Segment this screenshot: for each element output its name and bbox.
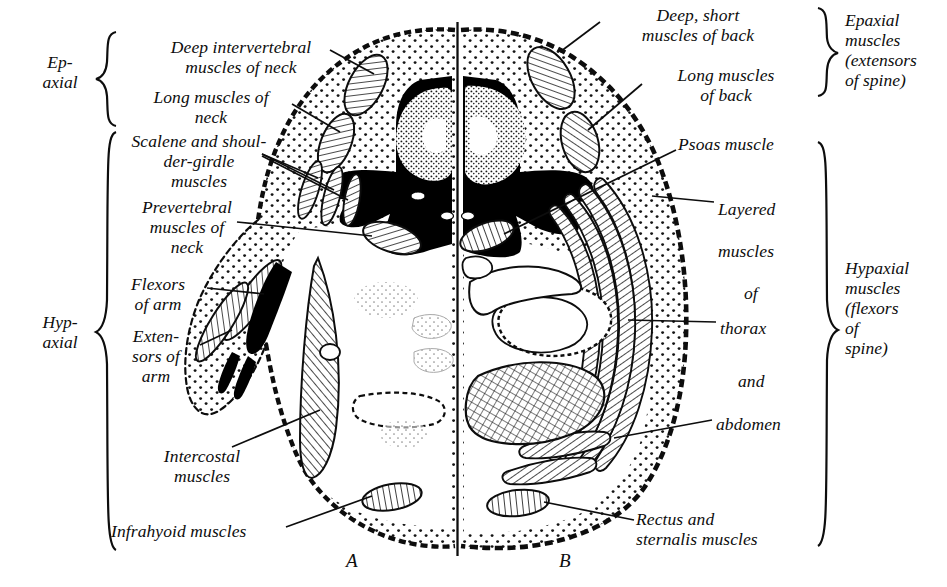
label-deep-short-muscles-of-back: Deep, short muscles of back xyxy=(600,5,796,45)
label-infrahyoid-muscles: Infrahyoid muscles xyxy=(111,521,246,541)
label-prevertebral-muscles-of-neck: Prevertebral muscles of neck xyxy=(108,197,266,257)
label-scalene-and-shoulder-girdle-muscles: Scalene and shoul- der-girdle muscles xyxy=(104,131,294,191)
label-flexors-of-arm: Flexors of arm xyxy=(106,274,210,314)
group-label-epaxial-left: Ep- axial xyxy=(18,52,102,92)
label-layered: Layered xyxy=(718,199,775,219)
leader-deep-short-back xyxy=(560,22,600,52)
group-label-epaxial-right: Epaxial muscles (extensors of spine) xyxy=(845,10,917,90)
label-deep-intervertebral-muscles-of-neck: Deep intervertebral muscles of neck xyxy=(136,37,346,77)
label-long-muscles-of-back: Long muscles of back xyxy=(642,65,810,105)
label-muscles: muscles xyxy=(718,241,774,261)
label-psoas-muscle: Psoas muscle xyxy=(678,134,774,154)
label-abdomen: abdomen xyxy=(716,414,781,434)
brace-right-epaxial xyxy=(818,8,838,96)
label-thorax: thorax xyxy=(720,318,766,338)
spinal-cord xyxy=(396,86,526,185)
vessel-a xyxy=(320,344,340,360)
group-label-hypaxial-left: Hyp- axial xyxy=(18,312,102,352)
panel-label-b: B xyxy=(559,550,571,572)
label-of: of xyxy=(744,283,758,303)
group-label-hypaxial-right: Hypaxial muscles (flexors of spine) xyxy=(845,258,909,358)
panel-label-a: A xyxy=(346,550,358,572)
label-intercostal-muscles: Intercostal muscles xyxy=(134,446,270,486)
brace-right-hypaxial xyxy=(818,142,838,546)
label-long-muscles-of-neck: Long muscles of neck xyxy=(118,87,304,127)
organ-small-b xyxy=(463,256,493,278)
figure-canvas: Ep- axial Hyp- axial Epaxial muscles (ex… xyxy=(0,0,947,587)
label-extensors-of-arm: Exten- sors of arm xyxy=(108,326,204,386)
label-rectus-and-sternalis-muscles: Rectus and sternalis muscles xyxy=(636,509,758,549)
label-and: and xyxy=(738,371,765,391)
